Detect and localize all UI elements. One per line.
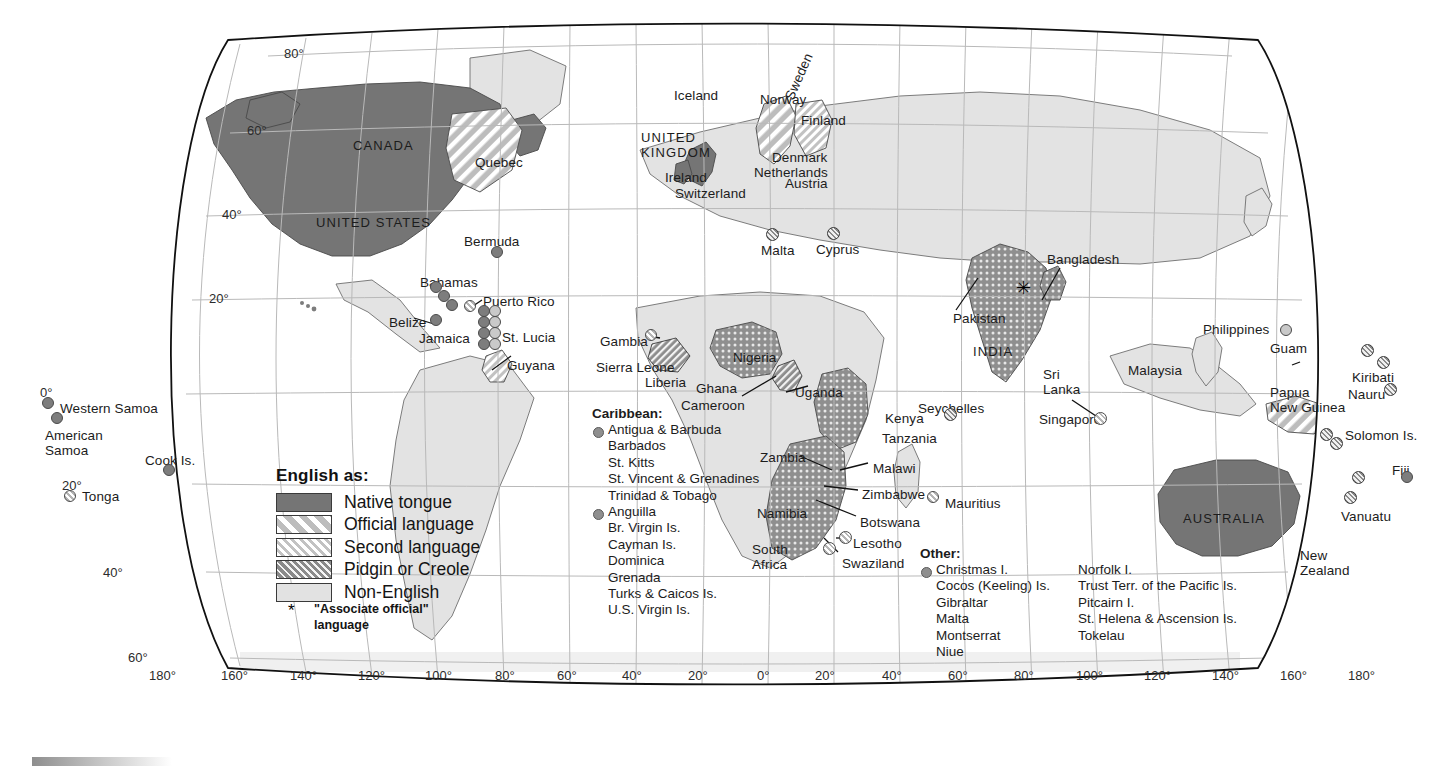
map-label-belize: Belize (389, 315, 426, 330)
other-list-column-1: Christmas I.Cocos (Keeling) Is.Gibraltar… (920, 562, 1036, 660)
asterisk-icon: * (288, 602, 314, 619)
list-item: Cayman Is. (592, 537, 759, 553)
map-label-mauritius: Mauritius (945, 496, 1001, 511)
map-point-seychelles-pt (944, 408, 957, 421)
list-item: St. Vincent & Grenadines (592, 471, 759, 487)
lat-label-80n: 80° (284, 46, 304, 61)
legend-swatch-non-english (276, 583, 332, 602)
list-item: Norfolk I. (1062, 562, 1237, 578)
map-point-fiji-pt (1401, 471, 1413, 483)
legend-label-native-tongue: Native tongue (344, 492, 452, 513)
legend-item-non-english[interactable]: Non-English (276, 581, 480, 604)
lon-label-100w: 100° (425, 668, 452, 683)
lat-label-20s: 20° (62, 478, 82, 493)
map-legend: English as: Native tongue Official langu… (276, 466, 480, 604)
map-label-philippines: Philippines (1203, 322, 1269, 337)
map-label-finland: Finland (801, 113, 846, 128)
legend-footnote: * "Associate official" language (288, 602, 429, 633)
list-item: Barbados (592, 438, 759, 454)
legend-footnote-text: "Associate official" language (314, 602, 429, 633)
map-label-bangladesh: Bangladesh (1047, 252, 1119, 267)
map-label-iceland: Iceland (674, 88, 718, 103)
lat-label-60n: 60° (247, 123, 267, 138)
map-label-pakistan: Pakistan (953, 311, 1006, 326)
map-point-mauritius-pt (927, 491, 939, 503)
map-point-bahamas-pt-3 (446, 299, 458, 311)
lon-label-20w: 20° (688, 668, 708, 683)
map-label-liberia: Liberia (645, 375, 686, 390)
lon-label-0: 0° (757, 668, 769, 683)
map-point-cook-is-pt (163, 464, 175, 476)
list-item: Christmas I. (920, 562, 1036, 578)
caribbean-list: Caribbean: Antigua & BarbudaBarbadosSt. … (592, 406, 759, 619)
map-point-carib-pt-8 (489, 338, 501, 350)
map-label-singapore: Singapore (1039, 412, 1101, 427)
legend-label-non-english: Non-English (344, 582, 439, 603)
map-label-jamaica: Jamaica (419, 331, 470, 346)
map-label-western-samoa: Western Samoa (60, 401, 158, 416)
map-point-solomon-pt-2 (1330, 437, 1343, 450)
list-item: Niue (920, 644, 1036, 660)
map-label-uganda: Uganda (795, 385, 843, 400)
list-item: Br. Virgin Is. (592, 520, 759, 536)
legend-item-second-language[interactable]: Second language (276, 536, 480, 559)
other-list-column-2: Norfolk I.Trust Terr. of the Pacific Is.… (1062, 562, 1237, 660)
map-point-guam-pt (1280, 324, 1292, 336)
legend-swatch-pidgin-or-creole (276, 560, 332, 579)
map-label-papua-new-guinea: Papua New Guinea (1270, 385, 1345, 415)
map-label-solomon-is: Solomon Is. (1345, 428, 1417, 443)
list-item: Dominica (592, 553, 759, 569)
map-label-austria: Austria (785, 176, 828, 191)
list-item: Cocos (Keeling) Is. (920, 578, 1036, 594)
map-label-ireland: Ireland (665, 170, 707, 185)
map-label-malta: Malta (761, 243, 795, 258)
lon-label-160e: 160° (1280, 668, 1307, 683)
lon-label-80w: 80° (495, 668, 515, 683)
lon-label-60w: 60° (557, 668, 577, 683)
legend-swatch-official-language (276, 515, 332, 534)
map-point-vanuatu-pt (1344, 491, 1357, 504)
map-label-nauru: Nauru (1348, 387, 1385, 402)
map-label-sri-lanka: Sri Lanka (1043, 367, 1080, 397)
map-label-swaziland: Swaziland (842, 556, 904, 571)
map-point-gambia-pt (645, 329, 657, 341)
lon-label-140e: 140° (1212, 668, 1239, 683)
map-label-botswana: Botswana (860, 515, 920, 530)
list-item: Tokelau (1062, 628, 1237, 644)
legend-item-official-language[interactable]: Official language (276, 514, 480, 537)
lat-label-0: 0° (40, 385, 52, 400)
map-point-american-samoa-pt (51, 412, 63, 424)
lon-label-60e: 60° (948, 668, 968, 683)
map-label-united-kingdom: UNITED KINGDOM (641, 131, 711, 160)
lon-label-20e: 20° (815, 668, 835, 683)
map-point-malta-pt (766, 228, 779, 241)
map-label-zimbabwe: Zimbabwe (862, 487, 925, 502)
map-label-india: INDIA (973, 345, 1013, 360)
legend-label-pidgin-or-creole: Pidgin or Creole (344, 559, 469, 580)
list-item: Gibraltar (920, 595, 1036, 611)
lon-label-100e: 100° (1076, 668, 1103, 683)
bottom-gradient-bar (32, 757, 172, 766)
world-map-figure: ✳ CANADAUNITED STATESQuebecBermudaBahama… (0, 0, 1442, 770)
list-item: Malta (920, 611, 1036, 627)
legend-swatch-native-tongue (276, 493, 332, 512)
other-list-heading: Other: (920, 546, 1237, 561)
map-label-united-states: UNITED STATES (316, 216, 431, 231)
legend-item-pidgin-or-creole[interactable]: Pidgin or Creole (276, 559, 480, 582)
lon-label-80e: 80° (1014, 668, 1034, 683)
lon-label-120w: 120° (358, 668, 385, 683)
map-label-sierra-leone: Sierra Leone (596, 360, 675, 375)
map-point-kiribati-pt-1 (1361, 344, 1374, 357)
map-point-puerto-rico-pt (464, 300, 476, 312)
map-point-swaziland-pt (823, 542, 836, 555)
associate-official-asterisk: ✳ (1016, 278, 1031, 298)
map-label-st-lucia: St. Lucia (502, 330, 555, 345)
map-label-tonga: Tonga (82, 489, 119, 504)
map-label-switzerland: Switzerland (675, 186, 746, 201)
legend-item-native-tongue[interactable]: Native tongue (276, 491, 480, 514)
map-point-nauru-pt (1384, 383, 1397, 396)
map-label-gambia: Gambia (600, 334, 648, 349)
map-label-denmark: Denmark (772, 150, 827, 165)
map-label-malaysia: Malaysia (1128, 363, 1182, 378)
map-point-jamaica-pt (430, 314, 442, 326)
